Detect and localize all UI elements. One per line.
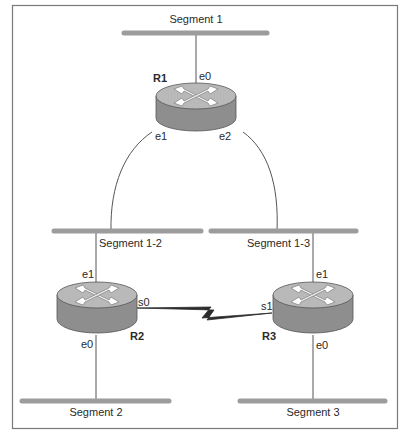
router-r3	[273, 282, 353, 333]
segment-1-label: Segment 1	[169, 13, 222, 25]
r1-e2-label: e2	[219, 130, 231, 142]
segment-1-3-label: Segment 1-3	[247, 237, 310, 249]
r1-label: R1	[153, 72, 167, 84]
segment-3-label: Segment 3	[286, 406, 339, 418]
r2-e1-label: e1	[82, 268, 94, 280]
r2-e0-label: e0	[81, 338, 93, 350]
r2-label: R2	[130, 330, 144, 342]
r3-e0-label: e0	[316, 339, 328, 351]
segment-2-label: Segment 2	[69, 406, 122, 418]
segment-1-2-label: Segment 1-2	[99, 237, 162, 249]
network-diagram: Segment 1 Segment 1-2 Segment 1-3 Segmen…	[0, 0, 405, 437]
link-r1-e1	[111, 132, 152, 231]
serial-link-icon	[137, 307, 272, 320]
router-r2	[57, 282, 137, 333]
link-r1-e2	[243, 132, 277, 231]
r1-e1-label: e1	[155, 130, 167, 142]
r1-e0-label: e0	[199, 70, 211, 82]
r3-s1-label: s1	[261, 300, 273, 312]
diagram-frame	[13, 6, 398, 429]
router-r1	[156, 83, 236, 131]
r2-s0-label: s0	[138, 296, 150, 308]
r3-e1-label: e1	[316, 268, 328, 280]
r3-label: R3	[262, 330, 276, 342]
